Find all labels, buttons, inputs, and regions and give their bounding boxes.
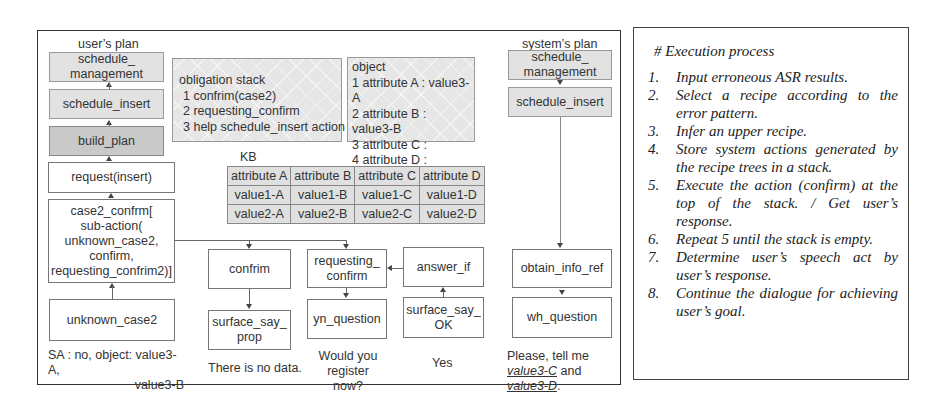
user-node-unknown-case2: unknown_case2 xyxy=(49,299,175,341)
arrow-down-icon xyxy=(557,243,563,248)
user-node-schedule-management: schedule_ management xyxy=(49,52,164,82)
node-label: sub-action( xyxy=(81,219,143,234)
node-yn-question: yn_question xyxy=(307,299,387,339)
node-label: unknown_case2, xyxy=(65,234,159,249)
step-text: Determine user’s speech act by user’s re… xyxy=(676,249,898,283)
step-text: Input erroneous ASR results. xyxy=(676,69,848,85)
user-node-request-insert: request(insert) xyxy=(48,162,175,193)
kb-cell: value2-C xyxy=(355,205,420,224)
step-text: Store system actions generated by the re… xyxy=(676,141,898,175)
connector xyxy=(391,268,403,269)
step-item: 6.Repeat 5 until the stack is empty. xyxy=(642,230,898,248)
node-answer-if: answer_if xyxy=(403,247,484,287)
caption-line: Would you register xyxy=(300,349,396,379)
obligation-stack: obligation stack 1 confrim(case2) 2 requ… xyxy=(172,58,342,142)
step-num: 7. xyxy=(648,248,659,266)
step-item: 8.Continue the dialogue for achieving us… xyxy=(642,284,898,320)
caption-text: Please, tell me xyxy=(507,349,589,363)
node-label: requesting_ xyxy=(314,254,379,269)
user-sa-caption: SA : no, object: value3-A, value3-B xyxy=(48,348,184,393)
connector xyxy=(560,117,561,244)
kb-cell: value1-B xyxy=(291,186,355,205)
step-item: 4.Store system actions generated by the … xyxy=(642,140,898,176)
node-label: case2_confrm[ xyxy=(71,204,153,219)
kb-cell: value1-D xyxy=(419,186,484,205)
connector xyxy=(175,240,347,241)
step-text: Infer an upper recipe. xyxy=(676,123,807,139)
kb-row: value2-A value2-B value2-C value2-D xyxy=(228,205,485,224)
kb-header: attribute A xyxy=(228,167,291,186)
object-item: 2 attribute B : value3-B xyxy=(352,107,470,138)
node-label: confirm, xyxy=(89,249,133,264)
node-label: prop xyxy=(237,330,262,345)
node-label: management xyxy=(70,67,143,82)
arrow-down-icon xyxy=(557,80,563,85)
node-label: surface_say_ xyxy=(406,303,480,318)
obligation-item: 2 requesting_confirm xyxy=(179,104,335,120)
obligation-stack-title: obligation stack xyxy=(179,73,335,89)
kb-header: attribute D xyxy=(419,167,484,186)
kb-cell: value2-D xyxy=(419,205,484,224)
step-item: 3.Infer an upper recipe. xyxy=(642,122,898,140)
arrow-down-icon xyxy=(559,290,565,295)
system-caption: Please, tell me value3-C and value3-D. xyxy=(507,349,619,394)
caption-line: SA : no, object: value3-A, xyxy=(48,348,184,378)
requesting-caption: Would you register now? xyxy=(300,349,396,394)
step-item: 2.Select a recipe according to the error… xyxy=(642,86,898,122)
execution-process-panel: # Execution process 1.Input erroneous AS… xyxy=(633,27,909,380)
kb-cell: value2-B xyxy=(291,205,355,224)
connector xyxy=(112,286,113,299)
kb-header-row: attribute A attribute B attribute C attr… xyxy=(228,167,485,186)
object-item: 1 attribute A : value3-A xyxy=(352,76,470,107)
node-label: management xyxy=(524,65,597,80)
kb-cell: value1-C xyxy=(355,186,420,205)
node-label: schedule_ xyxy=(532,50,589,65)
kb-title: KB xyxy=(240,150,257,165)
kb-cell: value2-A xyxy=(228,205,291,224)
step-item: 7.Determine user’s speech act by user’s … xyxy=(642,248,898,284)
object-box: object 1 attribute A : value3-A 2 attrib… xyxy=(347,57,475,142)
user-node-build-plan: build_plan xyxy=(49,126,164,156)
system-node-wh-question: wh_question xyxy=(512,297,612,338)
kb-header: attribute B xyxy=(291,167,355,186)
caption-value: value3-C xyxy=(507,364,557,378)
arrow-down-icon xyxy=(343,293,349,298)
obligation-item: 3 help schedule_insert action xyxy=(179,120,335,136)
user-node-case2-confrm: case2_confrm[ sub-action( unknown_case2,… xyxy=(48,199,175,283)
user-plan-title: user’s plan xyxy=(78,37,139,52)
execution-process-title: # Execution process xyxy=(654,42,898,60)
caption-text: and xyxy=(557,364,581,378)
system-node-schedule-management: schedule_ management xyxy=(508,50,612,80)
object-item: 3 attribute C : xyxy=(352,138,470,154)
system-node-schedule-insert: schedule_insert xyxy=(508,87,612,117)
step-item: 5.Execute the action (confirm) at the to… xyxy=(642,176,898,230)
node-label: schedule_ xyxy=(78,52,135,67)
obligation-item: 1 confrim(case2) xyxy=(179,89,335,105)
node-label: surface_say_ xyxy=(212,315,286,330)
caption-text: . xyxy=(557,379,560,393)
step-text: Execute the action (confirm) at the top … xyxy=(676,177,898,229)
node-label: confirm xyxy=(327,269,368,284)
step-num: 1. xyxy=(648,68,659,86)
step-num: 3. xyxy=(648,122,659,140)
system-node-obtain-info-ref: obtain_info_ref xyxy=(512,249,612,288)
arrow-down-icon xyxy=(246,304,252,309)
node-label: OK xyxy=(434,318,452,333)
kb-header: attribute C xyxy=(355,167,420,186)
answer-caption: Yes xyxy=(432,356,452,371)
step-text: Continue the dialogue for achieving user… xyxy=(676,285,898,319)
step-num: 5. xyxy=(648,176,659,194)
step-num: 8. xyxy=(648,284,659,302)
kb-cell: value1-A xyxy=(228,186,291,205)
node-surface-say-ok: surface_say_ OK xyxy=(403,297,484,338)
node-surface-say-prop: surface_say_ prop xyxy=(208,310,291,350)
node-confirm: confrim xyxy=(208,249,291,289)
step-text: Select a recipe according to the error p… xyxy=(676,87,898,121)
step-num: 4. xyxy=(648,140,659,158)
caption-value: value3-D xyxy=(507,379,557,393)
step-text: Repeat 5 until the stack is empty. xyxy=(676,231,873,247)
arrow-up-icon xyxy=(106,156,112,161)
kb-row: value1-A value1-B value1-C value1-D xyxy=(228,186,485,205)
step-item: 1.Input erroneous ASR results. xyxy=(642,68,898,86)
caption-line: now? xyxy=(300,379,396,394)
